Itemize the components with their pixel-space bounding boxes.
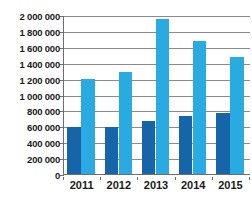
x-axis-line (64, 174, 250, 176)
x-tick-mark (212, 177, 213, 180)
x-tick-label: 2015 (218, 179, 242, 191)
x-tick-mark (175, 177, 176, 180)
y-tick-label: 600 000 (27, 122, 60, 133)
x-tick-label: 2012 (107, 179, 131, 191)
y-tick-mark (60, 16, 64, 17)
x-tick-mark (137, 177, 138, 180)
y-tick-label: 200 000 (27, 154, 60, 165)
y-tick-label: 1 000 000 (20, 90, 60, 101)
y-tick-mark (60, 80, 64, 81)
x-tick-label: 2011 (70, 179, 94, 191)
y-tick-label: 1 800 000 (20, 26, 60, 37)
bar (105, 127, 119, 175)
y-tick-mark (60, 96, 64, 97)
y-tick-label: 800 000 (27, 106, 60, 117)
x-tick-label: 2013 (144, 179, 168, 191)
y-tick-label: 400 000 (27, 138, 60, 149)
y-tick-mark (60, 143, 64, 144)
x-tick-label: 2014 (181, 179, 205, 191)
y-tick-mark (60, 32, 64, 33)
bar (216, 113, 230, 175)
bar (156, 19, 170, 175)
y-tick-label: 1 400 000 (20, 58, 60, 69)
bar-chart: 2 000 0001 800 0001 600 0001 400 0001 20… (0, 0, 252, 207)
y-axis-tick-labels: 2 000 0001 800 0001 600 0001 400 0001 20… (0, 0, 63, 180)
y-tick-mark (60, 159, 64, 160)
y-tick-mark (60, 127, 64, 128)
x-tick-mark (63, 177, 64, 180)
bar (67, 127, 81, 175)
bar (142, 121, 156, 175)
x-tick-mark (249, 177, 250, 180)
y-tick-label: 2 000 000 (20, 11, 60, 22)
y-tick-label: 1 600 000 (20, 42, 60, 53)
plot-area (63, 16, 249, 175)
y-tick-mark (60, 64, 64, 65)
y-tick-mark (60, 111, 64, 112)
bar (119, 72, 133, 175)
y-tick-mark (60, 175, 64, 176)
y-tick-label: 1 200 000 (20, 74, 60, 85)
x-axis-tick-labels: 20112012201320142015 (63, 177, 249, 201)
bar (179, 116, 193, 175)
bar (230, 57, 244, 175)
gridline (64, 16, 250, 17)
bar (81, 79, 95, 175)
x-tick-mark (100, 177, 101, 180)
y-tick-mark (60, 48, 64, 49)
bar (193, 41, 207, 175)
